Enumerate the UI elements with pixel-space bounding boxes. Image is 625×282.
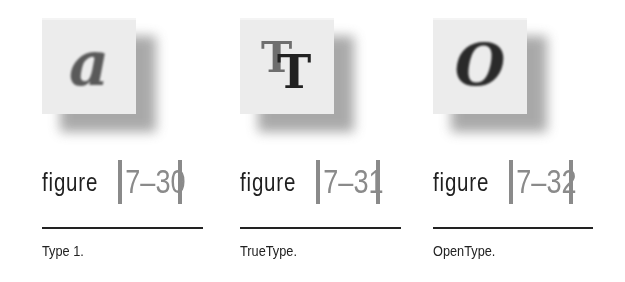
figure-number: 7–30 <box>122 163 187 201</box>
figure-label: Type 1. <box>42 242 84 259</box>
figure-word: figure <box>42 168 104 197</box>
figure-truetype: T T figure 7–31 TrueType. <box>240 0 420 282</box>
figure-caption: figure 7–31 <box>240 160 380 204</box>
type1-glyph: a <box>69 33 109 95</box>
caption-rule <box>433 227 593 229</box>
truetype-glyph-front: T <box>277 49 311 95</box>
figure-caption: figure 7–30 <box>42 160 182 204</box>
type1-font-icon: a <box>42 18 158 134</box>
opentype-font-icon: O <box>433 18 549 134</box>
caption-rule <box>240 227 401 229</box>
icon-tile: a <box>42 18 136 114</box>
figure-label: OpenType. <box>433 242 495 259</box>
figure-type1: a figure 7–30 Type 1. <box>42 0 222 282</box>
icon-tile: T T <box>240 18 334 114</box>
truetype-glyph: T T <box>257 37 317 97</box>
truetype-font-icon: T T <box>240 18 356 134</box>
figure-label: TrueType. <box>240 242 297 259</box>
caption-rule <box>42 227 203 229</box>
figure-number: 7–31 <box>320 163 385 201</box>
figure-word: figure <box>240 168 302 197</box>
figure-word: figure <box>433 168 495 197</box>
icon-tile: O <box>433 18 527 114</box>
figure-opentype: O figure 7–32 OpenType. <box>433 0 613 282</box>
figure-caption: figure 7–32 <box>433 160 573 204</box>
figure-number: 7–32 <box>513 163 578 201</box>
opentype-glyph: O <box>455 36 506 94</box>
